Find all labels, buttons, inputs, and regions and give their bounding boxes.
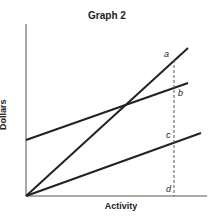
line-b xyxy=(26,83,188,140)
line-c xyxy=(26,133,201,196)
point-d-label: d xyxy=(166,184,171,194)
x-axis-label: Activity xyxy=(0,201,214,211)
point-c-label: c xyxy=(166,130,171,140)
graph-canvas xyxy=(0,0,214,221)
line-a xyxy=(26,48,188,196)
point-b-label: b xyxy=(178,88,183,98)
point-a-label: a xyxy=(164,49,169,59)
y-axis-label: Dollars xyxy=(0,99,8,130)
